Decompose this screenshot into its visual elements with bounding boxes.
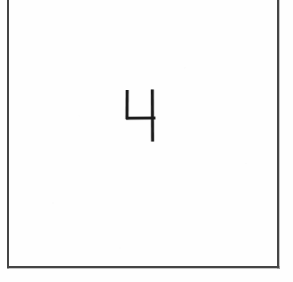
- box-border-left: [7, 0, 9, 268]
- scan-canvas: 4: [0, 0, 293, 282]
- box-border-right: [277, 0, 279, 268]
- digit-bounding-box[interactable]: [7, 0, 279, 268]
- box-border-bottom: [7, 266, 279, 268]
